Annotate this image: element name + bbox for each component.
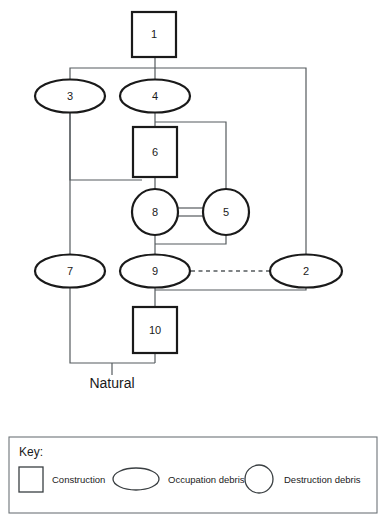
- node-10[interactable]: 10: [133, 307, 177, 353]
- node-2[interactable]: 2: [270, 255, 342, 288]
- key-label-destruction-debris: Destruction debris: [284, 474, 361, 485]
- node-5[interactable]: 5: [203, 189, 249, 235]
- edge-5-9: [155, 235, 226, 244]
- node-6-label: 6: [152, 146, 158, 158]
- node-9-label: 9: [152, 265, 158, 277]
- node-5-label: 5: [223, 206, 229, 218]
- node-8[interactable]: 8: [132, 189, 178, 235]
- node-2-label: 2: [303, 265, 309, 277]
- node-3[interactable]: 3: [35, 80, 105, 113]
- node-3-label: 3: [67, 90, 73, 102]
- node-9[interactable]: 9: [120, 255, 190, 288]
- natural-label: Natural: [89, 375, 134, 391]
- key-label-occupation-debris: Occupation debris: [168, 474, 245, 485]
- edge-3-6: [70, 113, 142, 181]
- node-1-label: 1: [151, 28, 157, 40]
- node-10-label: 10: [149, 324, 161, 336]
- key-square-icon: [19, 467, 43, 492]
- key-label-construction: Construction: [52, 474, 105, 485]
- node-7[interactable]: 7: [35, 255, 105, 288]
- diagram-stage: 1 3 4 6 8: [0, 0, 386, 518]
- node-1[interactable]: 1: [132, 12, 176, 57]
- node-6[interactable]: 6: [133, 127, 177, 177]
- harris-matrix-diagram: 1 3 4 6 8: [0, 0, 386, 518]
- edge-layer: [70, 57, 306, 376]
- edge-2-10: [155, 288, 306, 291]
- node-8-label: 8: [152, 206, 158, 218]
- node-4[interactable]: 4: [120, 80, 190, 113]
- key-title: Key:: [19, 445, 43, 459]
- key-circle-icon: [245, 465, 273, 493]
- key-ellipse-icon: [113, 468, 159, 490]
- edge-1-3: [70, 68, 155, 80]
- node-4-label: 4: [152, 90, 158, 102]
- node-7-label: 7: [67, 265, 73, 277]
- key-legend: Key: Construction Occupation debris Dest…: [9, 437, 377, 513]
- node-layer: 1 3 4 6 8: [35, 12, 342, 353]
